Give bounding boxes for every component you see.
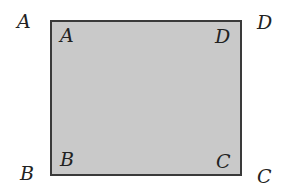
outer-label-top-right: D bbox=[257, 13, 272, 32]
outer-label-top-left: A bbox=[17, 12, 31, 31]
inner-label-top-left: A bbox=[60, 26, 74, 45]
inner-label-bottom-left: B bbox=[60, 150, 74, 169]
inner-label-bottom-right: C bbox=[216, 152, 231, 171]
inner-label-top-right: D bbox=[215, 27, 230, 46]
outer-label-bottom-left: B bbox=[20, 164, 34, 183]
gray-rectangle bbox=[50, 20, 242, 176]
outer-label-bottom-right: C bbox=[257, 167, 272, 186]
